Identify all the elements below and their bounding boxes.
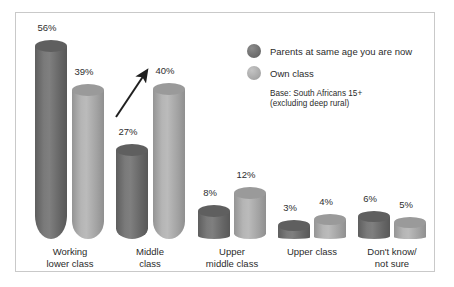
bar-body xyxy=(153,89,185,239)
chart-plot-area: 56% 39% Working lower class 27% 40% Midd… xyxy=(16,13,436,273)
value-label-upper-middle-own: 12% xyxy=(223,169,269,180)
legend-label-parents: Parents at same age you are now xyxy=(270,46,412,57)
bar-top-ellipse xyxy=(72,84,104,96)
value-label-upper-own: 4% xyxy=(303,196,349,207)
bar-upper-own xyxy=(314,214,346,239)
legend-swatch-own-class-icon xyxy=(247,66,261,80)
category-label-line2: middle class xyxy=(206,258,258,269)
category-label-line2: lower class xyxy=(47,258,94,269)
bar-working-lower-own xyxy=(72,84,104,239)
bar-upper-middle-parents xyxy=(198,205,230,239)
bar-body xyxy=(72,90,104,239)
base-note-line1: Base: South Africans 15+ xyxy=(270,89,362,99)
category-label-dont-know: Don't know/ not sure xyxy=(342,246,442,269)
legend-swatch-parents-icon xyxy=(247,44,261,58)
value-label-upper-middle-parents: 8% xyxy=(187,187,233,198)
category-label-line1: Working xyxy=(53,246,88,257)
chart-frame: 56% 39% Working lower class 27% 40% Midd… xyxy=(15,12,435,272)
legend-item-own-class[interactable]: Own class xyxy=(247,66,314,80)
bar-top-ellipse xyxy=(198,205,230,217)
bar-top-ellipse xyxy=(153,83,185,95)
category-label-line1: Middle xyxy=(136,246,164,257)
legend-label-own-class: Own class xyxy=(270,68,314,79)
legend-item-parents[interactable]: Parents at same age you are now xyxy=(247,44,412,58)
category-label-line2: not sure xyxy=(375,258,409,269)
bar-top-ellipse xyxy=(358,211,390,222)
bar-top-ellipse xyxy=(278,220,310,231)
bar-middle-own xyxy=(153,83,185,239)
bar-body xyxy=(116,150,148,239)
bar-top-ellipse xyxy=(116,144,148,156)
bar-upper-middle-own xyxy=(234,187,266,239)
bar-top-ellipse xyxy=(35,40,67,52)
value-label-middle-parents: 27% xyxy=(105,126,151,137)
bar-top-ellipse xyxy=(234,187,266,199)
bar-top-ellipse xyxy=(314,214,346,225)
bar-upper-parents xyxy=(278,220,310,239)
value-label-middle-own: 40% xyxy=(142,65,188,76)
value-label-dontknow-own: 5% xyxy=(383,199,429,210)
base-note-line2: (excluding deep rural) xyxy=(270,99,349,109)
bar-top-ellipse xyxy=(394,217,426,228)
bar-dontknow-own xyxy=(394,217,426,239)
category-label-line2: class xyxy=(139,258,161,269)
category-label-line1: Upper class xyxy=(287,246,337,257)
bar-body xyxy=(234,193,266,239)
category-label-line1: Don't know/ xyxy=(367,246,416,257)
value-label-working-lower-parents: 56% xyxy=(24,22,70,33)
value-label-working-lower-own: 39% xyxy=(61,66,107,77)
bar-middle-parents xyxy=(116,144,148,239)
category-label-line1: Upper xyxy=(219,246,245,257)
bar-dontknow-parents xyxy=(358,211,390,239)
